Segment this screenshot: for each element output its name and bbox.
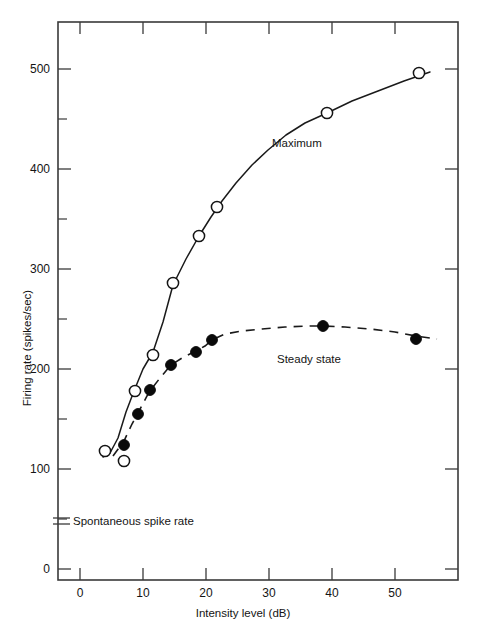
y-tick-label-100: 100	[30, 462, 50, 476]
data-point-steady-state	[207, 335, 218, 346]
data-point-maximum	[321, 107, 332, 118]
y-axis-label: Firing rate (spikes/sec)	[21, 290, 33, 406]
data-point-maximum	[118, 455, 129, 466]
y-tick-label-0: 0	[43, 562, 50, 576]
y-tick-label-400: 400	[30, 162, 50, 176]
data-point-maximum	[129, 385, 140, 396]
data-point-maximum	[413, 67, 424, 78]
data-point-steady-state	[191, 347, 202, 358]
y-tick-label-300: 300	[30, 262, 50, 276]
maximum-series-label: Maximum	[272, 137, 322, 149]
y-tick-label-200: 200	[30, 362, 50, 376]
x-tick-label-50: 50	[388, 586, 402, 600]
x-tick-label-20: 20	[199, 586, 213, 600]
data-point-maximum	[99, 445, 110, 456]
data-point-steady-state	[145, 385, 156, 396]
data-point-steady-state	[318, 321, 329, 332]
x-tick-label-30: 30	[262, 586, 276, 600]
spontaneous-rate-label: Spontaneous spike rate	[73, 515, 194, 527]
x-tick-label-0: 0	[77, 586, 84, 600]
x-tick-label-10: 10	[136, 586, 150, 600]
data-point-maximum	[167, 277, 178, 288]
x-tick-label-40: 40	[325, 586, 339, 600]
y-tick-label-500: 500	[30, 62, 50, 76]
data-point-steady-state	[133, 409, 144, 420]
data-point-steady-state	[119, 440, 130, 451]
data-point-maximum	[147, 349, 158, 360]
data-point-maximum	[211, 201, 222, 212]
figure-container: 0 100 200 300 400 500 0 10 20 30 40 50 I…	[0, 0, 481, 630]
steady-state-series-label: Steady state	[277, 353, 341, 365]
firing-rate-vs-intensity-chart: 0 100 200 300 400 500 0 10 20 30 40 50 I…	[0, 0, 481, 630]
x-axis-label: Intensity level (dB)	[196, 607, 291, 619]
chart-background	[0, 0, 481, 630]
data-point-steady-state	[411, 334, 422, 345]
data-point-steady-state	[166, 360, 177, 371]
data-point-maximum	[193, 230, 204, 241]
